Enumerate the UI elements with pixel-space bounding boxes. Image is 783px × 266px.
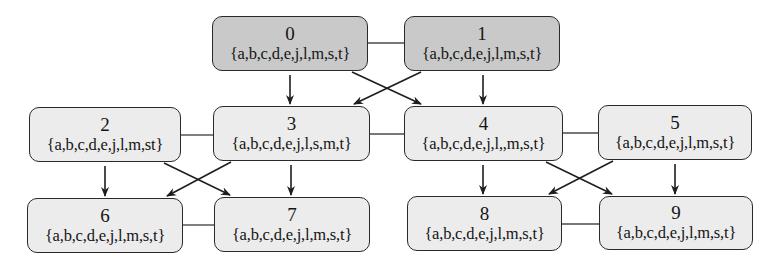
node-set: {a,b,c,d,e,j,l,s,m,t} xyxy=(231,134,351,154)
node-set: {a,b,c,d,e,j,l,m,s,t} xyxy=(422,44,542,64)
node-3: 3 {a,b,c,d,e,j,l,s,m,t} xyxy=(213,106,370,161)
node-label: 1 xyxy=(477,24,487,44)
node-label: 0 xyxy=(285,24,295,44)
node-4: 4 {a,b,c,d,e,j,l,,m,s,t} xyxy=(404,106,563,161)
node-0: 0 {a,b,c,d,e,j,l,m,s,t} xyxy=(212,16,368,71)
node-set: {a,b,c,d,e,j,l,m,s,t} xyxy=(424,224,544,244)
node-8: 8 {a,b,c,d,e,j,l,m,s,t} xyxy=(407,196,562,251)
node-set: {a,b,c,d,e,j,l,m,s,t} xyxy=(45,226,165,246)
arrow-2-to-7 xyxy=(164,163,230,195)
arrow-4-to-9 xyxy=(546,162,612,194)
node-5: 5 {a,b,c,d,e,j,l,m,s,t} xyxy=(598,105,752,160)
node-set: {a,b,c,d,e,j,l,m,s,t} xyxy=(615,133,735,153)
node-label: 3 xyxy=(287,114,297,134)
node-1: 1 {a,b,c,d,e,j,l,m,s,t} xyxy=(404,16,560,71)
arrow-1-to-3 xyxy=(354,72,421,104)
node-2: 2 {a,b,c,d,e,j,l,m,st} xyxy=(29,107,181,162)
node-label: 8 xyxy=(480,204,490,224)
node-set: {a,b,c,d,e,j,l,m,s,t} xyxy=(230,44,350,64)
node-label: 7 xyxy=(287,205,297,225)
node-9: 9 {a,b,c,d,e,j,l,m,s,t} xyxy=(599,196,753,250)
arrow-0-to-4 xyxy=(352,72,421,104)
lattice-diagram: 0 {a,b,c,d,e,j,l,m,s,t} 1 {a,b,c,d,e,j,l… xyxy=(0,0,783,266)
node-label: 4 xyxy=(479,114,489,134)
node-set: {a,b,c,d,e,j,l,,m,s,t} xyxy=(421,134,545,154)
arrow-5-to-8 xyxy=(549,161,613,194)
arrow-3-to-6 xyxy=(167,162,231,196)
node-label: 2 xyxy=(100,115,110,135)
node-set: {a,b,c,d,e,j,l,m,s,t} xyxy=(232,225,352,245)
node-label: 6 xyxy=(100,206,110,226)
node-label: 5 xyxy=(670,113,680,133)
node-set: {a,b,c,d,e,j,l,m,s,t} xyxy=(616,223,736,243)
node-label: 9 xyxy=(671,203,681,223)
directed-edges xyxy=(105,72,675,196)
node-7: 7 {a,b,c,d,e,j,l,m,s,t} xyxy=(214,197,370,252)
node-6: 6 {a,b,c,d,e,j,l,m,s,t} xyxy=(27,198,183,253)
node-set: {a,b,c,d,e,j,l,m,st} xyxy=(47,135,163,155)
